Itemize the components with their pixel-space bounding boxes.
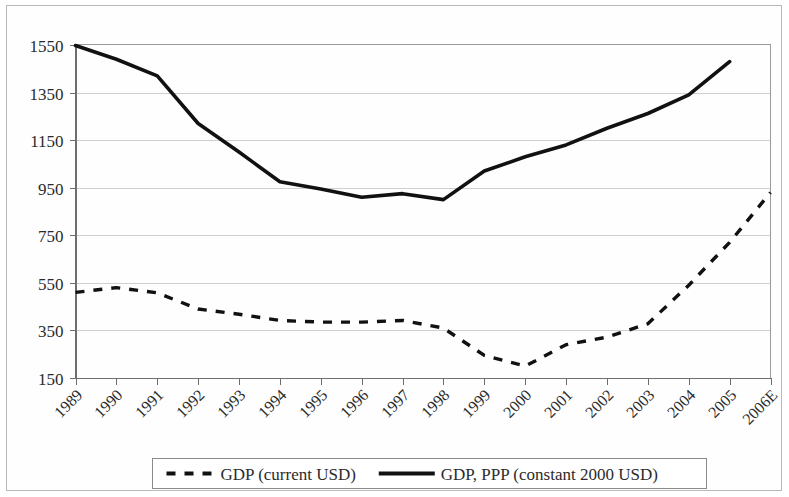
gridlines: [76, 94, 771, 379]
x-tick-label: 2006E: [739, 386, 781, 428]
series-line-gdp-current-usd: [76, 192, 771, 366]
x-tick-label: 2001: [541, 386, 576, 421]
x-tick-label: 1999: [459, 386, 494, 421]
series-line-gdp-ppp-constant-2000-usd: [76, 45, 730, 199]
x-tick-label: 1994: [255, 386, 290, 421]
x-tick-label: 2002: [582, 386, 617, 421]
x-tick-label: 2005: [705, 386, 740, 421]
chart-page: 150350550750950115013501550 198919901991…: [0, 0, 789, 497]
x-tick-label: 2000: [500, 386, 535, 421]
legend-label-1: GDP (current USD): [221, 465, 356, 484]
x-tick-label: 2004: [664, 386, 699, 421]
x-tick-label: 1995: [296, 386, 331, 421]
y-tick-label: 750: [38, 227, 64, 246]
x-tick-label: 1992: [173, 386, 208, 421]
x-tick-label: 1997: [378, 386, 413, 421]
y-tick-label: 1550: [30, 37, 64, 56]
y-axis-labels: 150350550750950115013501550: [30, 37, 64, 389]
x-tick-label: 1996: [337, 386, 372, 421]
plot-area-border: [76, 45, 771, 379]
y-tick-label: 150: [38, 370, 64, 389]
y-tick-label: 550: [38, 275, 64, 294]
x-tick-label: 1989: [51, 386, 86, 421]
y-tick-label: 1350: [30, 85, 64, 104]
x-tick-label: 1993: [214, 386, 249, 421]
line-chart: 150350550750950115013501550 198919901991…: [0, 0, 789, 497]
legend-label-2: GDP, PPP (constant 2000 USD): [441, 465, 658, 484]
y-tick-label: 1150: [30, 132, 63, 151]
y-tick-label: 350: [38, 322, 64, 341]
x-tick-label: 1991: [132, 386, 167, 421]
x-axis-labels: 1989199019911992199319941995199619971998…: [51, 386, 781, 428]
y-tick-label: 950: [38, 180, 64, 199]
x-tick-label: 1990: [91, 386, 126, 421]
x-tick-label: 2003: [623, 386, 658, 421]
x-tick-label: 1998: [418, 386, 453, 421]
chart-legend: GDP (current USD)GDP, PPP (constant 2000…: [153, 459, 707, 489]
